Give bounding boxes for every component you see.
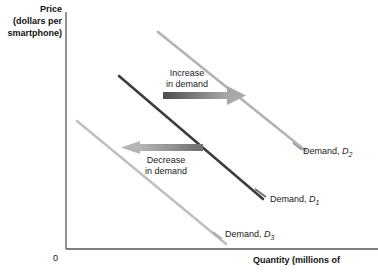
demand-curve-d2-label: Demand, D2: [303, 146, 352, 160]
d2-label-text: Demand,: [303, 146, 340, 156]
d1-label-text: Demand,: [270, 194, 307, 204]
demand-shift-figure: Price (dollars per smartphone) Quantity …: [0, 0, 378, 272]
decrease-label-line-1: Decrease: [145, 155, 187, 166]
d1-label-sub: 1: [316, 199, 320, 206]
decrease-label-line-2: in demand: [145, 166, 187, 177]
demand-curve-d1-label: Demand, D1: [270, 194, 319, 208]
demand-curve-d3: [77, 121, 226, 244]
increase-label-line-2: in demand: [166, 79, 208, 90]
y-axis-title: Price (dollars per smartphone): [0, 3, 62, 39]
d3-label-sub: 3: [271, 234, 275, 241]
y-axis-title-line-3: smartphone): [0, 27, 62, 39]
label-leader-lines: [213, 143, 302, 239]
plot-area: [0, 0, 378, 272]
decrease-in-demand-label: Decrease in demand: [145, 155, 187, 177]
increase-label-line-1: Increase: [166, 68, 208, 79]
axis-lines: [66, 12, 378, 249]
demand-curve-d3-label: Demand, D3: [225, 229, 274, 243]
x-axis-title: Quantity (millions of: [253, 255, 340, 265]
origin-label: 0: [53, 253, 58, 263]
d2-label-sub: 2: [349, 151, 353, 158]
y-axis-title-line-1: Price: [0, 3, 62, 15]
decrease-arrow-icon: [121, 141, 203, 154]
increase-in-demand-label: Increase in demand: [166, 68, 208, 90]
y-axis-title-line-2: (dollars per: [0, 15, 62, 27]
d3-label-text: Demand,: [225, 229, 262, 239]
